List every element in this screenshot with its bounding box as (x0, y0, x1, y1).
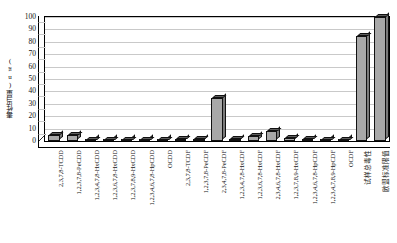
bar-slot (67, 16, 78, 141)
bar-top-face (158, 137, 173, 140)
x-tick-label: OCDD (166, 150, 173, 240)
x-tick-label: 1,2,3,4,6,7,8-HpCDF (311, 150, 318, 240)
bar[interactable] (211, 98, 222, 141)
x-tick-label: 1,2,3,4,6,7,8-HpCDD (148, 150, 155, 240)
bar[interactable] (284, 138, 295, 141)
bar-top-face (339, 137, 354, 140)
bar-top-face (285, 135, 300, 138)
y-tick-label: 100 (14, 13, 36, 21)
y-tick-label: 10 (14, 125, 36, 133)
bar-top-face (230, 136, 245, 139)
x-tick-label: 试样总毒性 (365, 150, 372, 240)
y-tick-label: 60 (14, 63, 36, 71)
bar-top-face (176, 136, 191, 139)
y-tick-label: 30 (14, 100, 36, 108)
bar-slot (229, 16, 240, 141)
x-tick-label: 1,2,3,4,7,8,9-HpCDF (329, 150, 336, 240)
y-tick-label: 90 (14, 26, 36, 34)
x-tick-label: OCDF (347, 150, 354, 240)
bar-side-face (367, 31, 370, 139)
y-axis-tick-labels: 1009080706050403020100 (14, 16, 36, 148)
bar-top-face (140, 137, 155, 140)
bar-slot (266, 16, 277, 141)
bar-slot (121, 16, 132, 141)
bar[interactable] (193, 139, 204, 141)
x-tick-label: 1,2,3,6,7,8-HxCDD (111, 150, 118, 240)
bar[interactable] (175, 139, 186, 141)
x-tick-label: 1,2,3,6,7,8-HxCDF (256, 150, 263, 240)
bar-slot (139, 16, 150, 141)
bar-top-face (122, 137, 137, 140)
x-tick-label: 2,3,4,7,8-PeCDF (220, 150, 227, 240)
x-tick-label: 1,2,3,7,8-PeCDF (202, 150, 209, 240)
y-tick-label: 0 (14, 137, 36, 145)
bar[interactable] (374, 17, 385, 141)
y-tick-label: 80 (14, 38, 36, 46)
bar-slot (302, 16, 313, 141)
bar-top-face (303, 136, 318, 139)
bar-slot (284, 16, 295, 141)
bar[interactable] (248, 136, 259, 141)
bar-slot (48, 16, 59, 141)
toxic-equivalent-bar-chart: 毒性当量(ng) 1009080706050403020100 2,3,7,8-… (0, 0, 397, 243)
bar-slot (103, 16, 114, 141)
x-tick-label: 1,2,3,7,8,9-HxCDD (129, 150, 136, 240)
y-tick-label: 40 (14, 88, 36, 96)
bar-slot (85, 16, 96, 141)
bar-slot (175, 16, 186, 141)
bar-slot (211, 16, 222, 141)
bar-side-face (386, 12, 389, 139)
x-tick-label: 2,3,7,8-TCDF (184, 150, 191, 240)
bar-top-face (321, 137, 336, 140)
y-tick-label: 20 (14, 112, 36, 120)
bar[interactable] (356, 36, 367, 141)
y-tick-label: 50 (14, 75, 36, 83)
x-tick-label: 2,3,7,8-TCDD (57, 150, 64, 240)
y-tick-label: 70 (14, 50, 36, 58)
bar[interactable] (67, 135, 78, 141)
bar[interactable] (48, 135, 59, 141)
plot-floor (38, 141, 390, 148)
x-tick-label: 1,2,3,7,8,9-HxCDF (292, 150, 299, 240)
bar-top-face (104, 137, 119, 140)
bar-slot (248, 16, 259, 141)
bar-slot (374, 16, 385, 141)
x-tick-label: 1,2,3,4,7,8-HxCDD (93, 150, 100, 240)
bar-side-face (223, 93, 226, 139)
bar-slot (157, 16, 168, 141)
x-tick-label: 1,2,3,4,7,8-HxCDF (238, 150, 245, 240)
bar-top-face (86, 137, 101, 140)
bar-slot (338, 16, 349, 141)
x-axis-category-labels: 2,3,7,8-TCDD1,2,3,7,8-PeCDD1,2,3,4,7,8-H… (38, 150, 390, 242)
gridline (45, 141, 389, 142)
bar-series (45, 16, 389, 141)
bar[interactable] (266, 131, 277, 141)
bar-slot (193, 16, 204, 141)
plot-area (38, 16, 390, 148)
bar-top-face (194, 136, 209, 139)
x-tick-label: 1,2,3,7,8-PeCDD (75, 150, 82, 240)
bar-slot (320, 16, 331, 141)
x-tick-label: 欧盟标准限值 (383, 150, 390, 240)
x-tick-label: 2,3,4,6,7,8-HxCDF (274, 150, 281, 240)
bar-slot (356, 16, 367, 141)
bar[interactable] (302, 139, 313, 141)
